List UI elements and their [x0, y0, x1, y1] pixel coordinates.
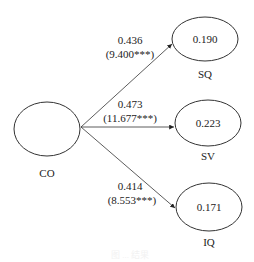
tvalue-sq: (9.400***)	[96, 48, 164, 61]
label-sv: SV	[188, 150, 228, 163]
figure-caption: 图 ... 结果	[60, 248, 200, 261]
tvalue-sv: (11.677***)	[96, 112, 164, 125]
label-co: CO	[27, 167, 67, 180]
r2-sv: 0.223	[178, 117, 238, 129]
r2-sq: 0.190	[175, 33, 235, 45]
coef-iq: 0.414	[100, 180, 160, 193]
label-sq: SQ	[185, 68, 225, 81]
node-co	[14, 102, 80, 156]
coef-sv: 0.473	[100, 98, 160, 111]
tvalue-iq: (8.553***)	[98, 194, 166, 207]
coef-sq: 0.436	[100, 34, 160, 47]
r2-iq: 0.171	[179, 201, 239, 213]
